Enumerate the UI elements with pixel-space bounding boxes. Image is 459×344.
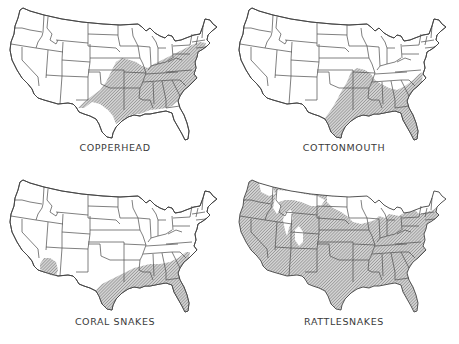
map-label-coral-snakes: CORAL SNAKES — [0, 316, 230, 327]
map-label-cottonmouth: COTTONMOUTH — [229, 142, 459, 153]
us-map-cottonmouth — [229, 0, 459, 150]
us-map-rattlesnakes — [229, 172, 459, 322]
map-panel-cottonmouth: COTTONMOUTH — [229, 0, 459, 172]
us-map-copperhead — [0, 0, 230, 150]
us-map-coral-snakes — [0, 172, 230, 322]
map-panel-rattlesnakes: RATTLESNAKES — [229, 172, 459, 344]
map-panel-coral-snakes: CORAL SNAKES — [0, 172, 230, 344]
map-label-copperhead: COPPERHEAD — [0, 142, 230, 153]
map-panel-copperhead: COPPERHEAD — [0, 0, 230, 172]
map-label-rattlesnakes: RATTLESNAKES — [229, 316, 459, 327]
